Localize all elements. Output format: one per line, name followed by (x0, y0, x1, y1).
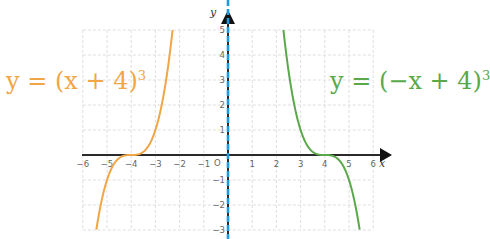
y-axis-label: y (209, 6, 217, 19)
x-tick-label: −1 (198, 159, 211, 169)
y-tick-label: 5 (220, 25, 225, 35)
y-tick-label: 2 (220, 100, 225, 110)
x-tick-label: 2 (274, 159, 279, 169)
tick-labels: −6−5−4−3−2−1123456−3−2−112345 (77, 25, 376, 235)
series-label-right: y = (−x + 4)3 (330, 67, 490, 95)
y-tick-label: 4 (220, 50, 225, 60)
x-tick-label: −2 (173, 159, 186, 169)
y-tick-label: 1 (220, 125, 225, 135)
x-axis-label: x (379, 157, 386, 170)
y-tick-label: −2 (212, 200, 225, 210)
x-tick-label: −3 (149, 159, 162, 169)
series-label-left-exponent: 3 (138, 68, 146, 83)
series-label-left: y = (x + 4)3 (6, 67, 146, 95)
x-tick-label: 5 (346, 159, 351, 169)
series-label-right-exponent: 3 (482, 68, 490, 83)
x-tick-label: 6 (370, 159, 375, 169)
x-tick-label: 3 (298, 159, 303, 169)
x-tick-label: −4 (125, 159, 138, 169)
x-tick-label: −6 (77, 159, 90, 169)
x-tick-label: 4 (322, 159, 327, 169)
origin-label: O (214, 158, 221, 168)
series-label-left-text: y = (x + 4) (6, 67, 138, 95)
y-tick-label: 3 (220, 75, 225, 85)
series-label-right-text: y = (−x + 4) (330, 67, 482, 95)
y-tick-label: −3 (212, 225, 225, 235)
y-tick-label: −1 (212, 175, 225, 185)
x-tick-label: 1 (249, 159, 254, 169)
